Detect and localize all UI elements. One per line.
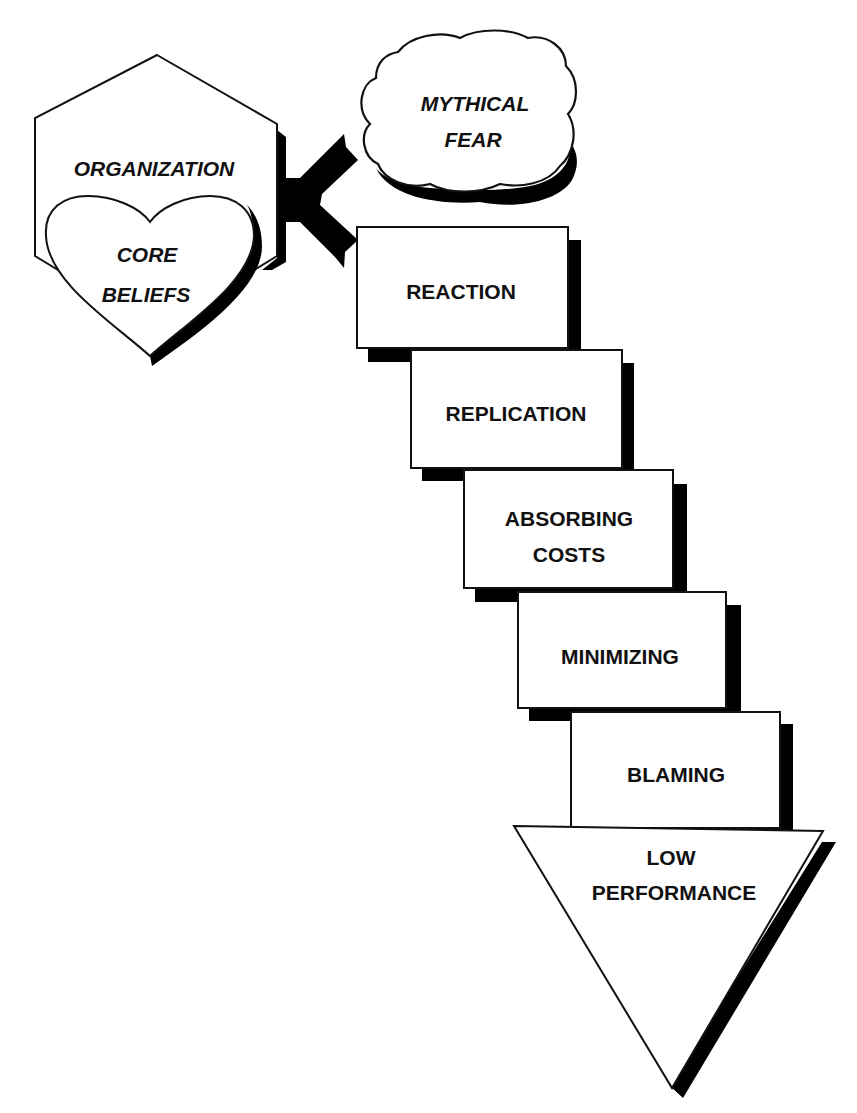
step-minimizing-label: MINIMIZING [561, 645, 679, 668]
core-beliefs-label-line1: CORE [117, 243, 179, 266]
step-blaming-label: BLAMING [627, 763, 725, 786]
core-beliefs-heart: CORE BELIEFS [46, 196, 262, 366]
step-reaction-label: REACTION [406, 280, 516, 303]
organization-label: ORGANIZATION [74, 157, 235, 180]
mythical-fear-label-line2: FEAR [444, 128, 502, 151]
outcome-label-line2: PERFORMANCE [592, 881, 757, 904]
step-reaction: REACTION [357, 227, 581, 362]
step-replication: REPLICATION [411, 350, 634, 481]
mythical-fear-label-line1: MYTHICAL [421, 92, 530, 115]
step-blaming: BLAMING [571, 712, 793, 836]
forked-arrow-connector [284, 134, 358, 268]
core-beliefs-cascade-diagram: ORGANIZATION CORE BELIEFS MYTHICAL FEAR … [0, 0, 857, 1113]
outcome-low-performance: LOW PERFORMANCE [514, 826, 836, 1098]
step-absorbing-costs-label-line2: COSTS [533, 543, 605, 566]
mythical-fear-cloud: MYTHICAL FEAR [361, 31, 576, 205]
step-absorbing-costs-label-line1: ABSORBING [505, 507, 633, 530]
outcome-label-line1: LOW [647, 846, 696, 869]
step-replication-label: REPLICATION [446, 402, 587, 425]
step-minimizing: MINIMIZING [518, 592, 741, 721]
forked-arrow-icon [284, 134, 358, 268]
step-absorbing-costs: ABSORBING COSTS [464, 470, 687, 602]
core-beliefs-label-line2: BELIEFS [102, 283, 191, 306]
